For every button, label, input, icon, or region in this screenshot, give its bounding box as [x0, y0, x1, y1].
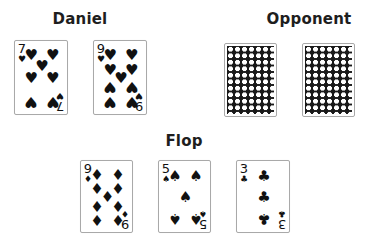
daniel-title: Daniel — [40, 10, 120, 28]
card-back-pattern — [305, 46, 352, 114]
flop-title: Flop — [154, 132, 214, 150]
heart-icon: ♥ — [102, 78, 118, 94]
diamond-icon: ♦ — [89, 211, 105, 227]
diamond-icon: ♦ — [110, 211, 126, 227]
club-icon: ♣ — [256, 190, 272, 206]
heart-icon: ♥ — [23, 93, 39, 109]
opponent-title: Opponent — [254, 10, 364, 28]
flop-card-3[interactable]: 3 ♣ 3 ♣ ♣♣♣ — [236, 160, 290, 233]
club-icon: ♣ — [239, 175, 249, 184]
club-icon: ♣ — [256, 169, 272, 185]
heart-icon: ♥ — [23, 71, 39, 87]
heart-icon: ♥ — [124, 78, 140, 94]
card-index-top: 3 ♣ — [239, 163, 249, 184]
spade-icon: ♠ — [167, 169, 183, 185]
club-icon: ♣ — [256, 210, 272, 226]
spade-icon: ♠ — [188, 169, 204, 185]
spade-icon: ♠ — [178, 190, 194, 206]
heart-icon: ♥ — [102, 93, 118, 109]
opponent-card-2-facedown[interactable] — [302, 43, 355, 117]
club-icon: ♣ — [277, 209, 287, 218]
flop-card-2[interactable]: 5 ♠ 5 ♠ ♠♠♠♠♠ — [158, 160, 211, 233]
card-index-bottom: 3 ♣ — [277, 209, 287, 230]
rank-label: 3 — [277, 218, 287, 230]
card-back-pattern — [227, 46, 274, 114]
heart-icon: ♥ — [45, 71, 61, 87]
daniel-card-1[interactable]: 7 ♥ 7 ♥ ♥♥♥♥♥♥♥ — [14, 40, 68, 115]
heart-icon: ♥ — [45, 93, 61, 109]
spade-icon: ♠ — [188, 210, 204, 226]
flop-card-1[interactable]: 9 ♦ 9 ♦ ♦♦♦♦♦♦♦♦♦ — [80, 160, 133, 233]
opponent-card-1-facedown[interactable] — [224, 43, 277, 117]
spade-icon: ♠ — [167, 210, 183, 226]
daniel-card-2[interactable]: 9 ♥ 9 ♥ ♥♥♥♥♥♥♥♥♥ — [93, 40, 147, 115]
heart-icon: ♥ — [124, 93, 140, 109]
